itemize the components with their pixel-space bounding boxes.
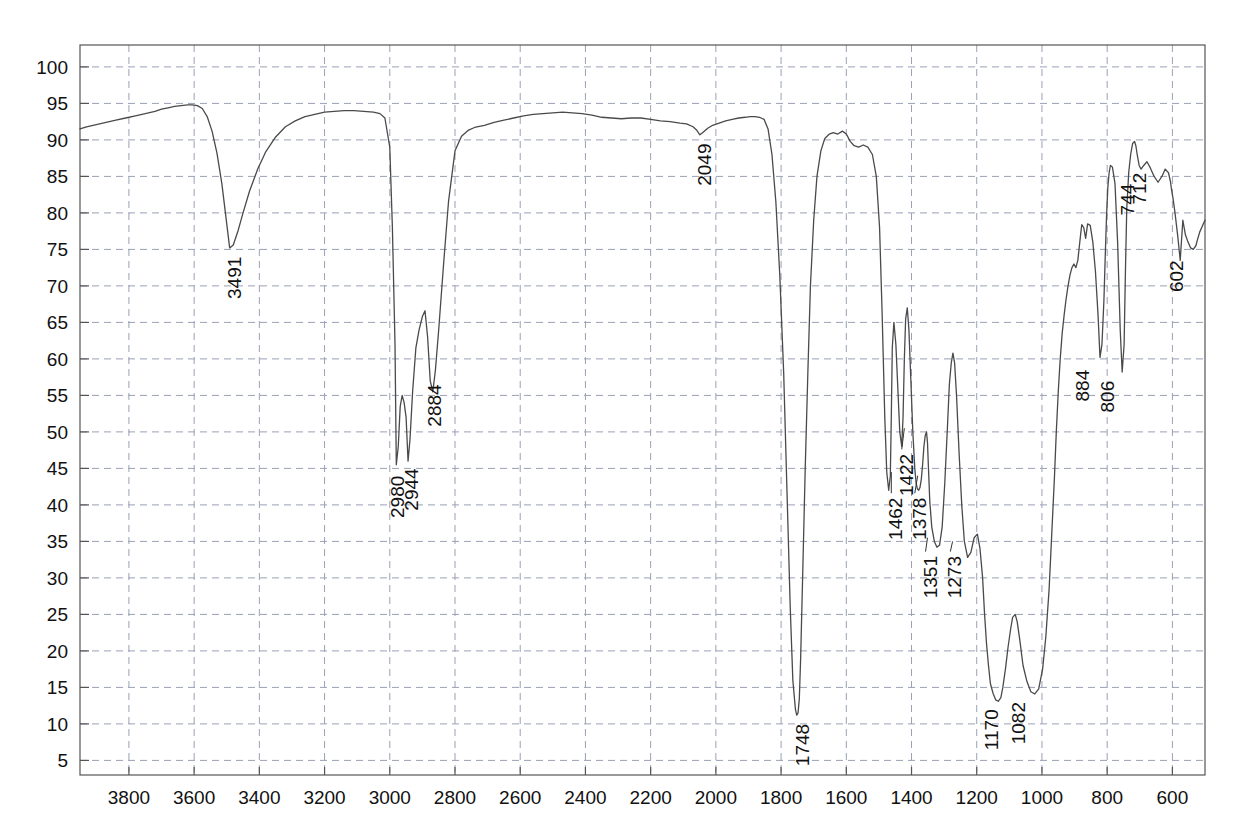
peak-label: 1082 [1008, 702, 1029, 744]
y-axis-tick-label: 85 [47, 166, 68, 187]
y-axis-tick-label: 20 [47, 641, 68, 662]
spectrum-curve [80, 105, 1205, 715]
y-axis-tick-label: 5 [57, 750, 68, 771]
y-axis-tick-label: 55 [47, 385, 68, 406]
peak-label: 1170 [981, 709, 1002, 750]
peak-label: 1748 [792, 724, 813, 766]
peak-label: 602 [1166, 260, 1187, 292]
peak-label: 1462 [885, 498, 906, 540]
y-axis-tick-label: 15 [47, 677, 68, 698]
peak-label: 1273 [944, 556, 965, 598]
y-axis-tick-label: 100 [36, 57, 68, 78]
spectrum-curve-layer [80, 105, 1205, 715]
x-axis-tick-label: 3400 [238, 787, 280, 808]
grid-layer [80, 45, 1205, 775]
peak-label: 1378 [909, 498, 930, 540]
ir-spectrum-chart: 5101520253035404550556065707580859095100… [0, 0, 1242, 839]
peak-label: 1422 [896, 454, 917, 496]
peak-label: 806 [1097, 381, 1118, 413]
plot-border [80, 45, 1205, 775]
peak-label: 2049 [694, 144, 715, 186]
y-axis-tick-label: 80 [47, 203, 68, 224]
x-axis-tick-label: 2600 [499, 787, 541, 808]
x-axis-tick-label: 3800 [108, 787, 150, 808]
x-axis-tick-label: 1400 [890, 787, 932, 808]
x-axis-tick-label: 2800 [434, 787, 476, 808]
peak-label: 1351 [920, 556, 941, 598]
x-axis-tick-label: 2200 [630, 787, 672, 808]
x-axis-tick-label: 600 [1157, 787, 1189, 808]
x-axis-tick-label: 800 [1091, 787, 1123, 808]
y-axis-tick-label: 45 [47, 458, 68, 479]
y-axis-tick-label: 40 [47, 495, 68, 516]
x-axis-tick-label: 1200 [956, 787, 998, 808]
y-axis-tick-label: 75 [47, 239, 68, 260]
x-axis-tick-label: 1600 [825, 787, 867, 808]
y-axis-tick-label: 70 [47, 276, 68, 297]
y-axis-tick-label: 65 [47, 312, 68, 333]
y-axis-tick-label: 35 [47, 531, 68, 552]
peak-label: 2944 [401, 468, 422, 511]
y-axis-tick-label: 95 [47, 93, 68, 114]
x-axis-tick-label: 1800 [760, 787, 802, 808]
peak-label: 712 [1129, 173, 1150, 205]
peak-label: 884 [1072, 369, 1093, 401]
y-axis-tick-label: 30 [47, 568, 68, 589]
peak-leader-line [950, 541, 952, 551]
x-axis-tick-label: 1000 [1021, 787, 1063, 808]
y-tick-labels: 5101520253035404550556065707580859095100 [36, 57, 68, 772]
peak-label: 2884 [424, 384, 445, 427]
x-axis-tick-label: 3600 [173, 787, 215, 808]
y-axis-tick-label: 10 [47, 714, 68, 735]
x-axis-tick-label: 3000 [369, 787, 411, 808]
spectrum-plot: 5101520253035404550556065707580859095100… [0, 0, 1242, 839]
x-axis-tick-label: 3200 [303, 787, 345, 808]
peak-label: 3491 [224, 257, 245, 299]
y-axis-tick-label: 60 [47, 349, 68, 370]
axis-frame [80, 45, 1205, 775]
x-tick-labels: 3800360034003200300028002600240022002000… [108, 787, 1188, 808]
y-axis-tick-label: 25 [47, 604, 68, 625]
x-axis-tick-label: 2000 [695, 787, 737, 808]
x-axis-tick-label: 2400 [564, 787, 606, 808]
y-axis-tick-label: 90 [47, 130, 68, 151]
y-axis-tick-label: 50 [47, 422, 68, 443]
